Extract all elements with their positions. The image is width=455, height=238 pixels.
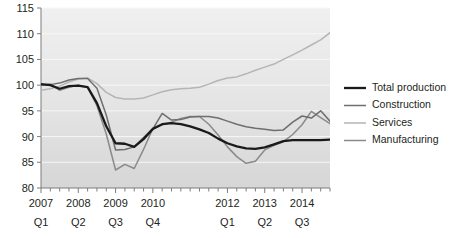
y-tick-label: 80: [22, 182, 34, 194]
x-tick-quarter-label: Q2: [257, 216, 272, 228]
x-tick-year-label: 2010: [141, 197, 165, 209]
y-tick-label: 95: [22, 105, 34, 117]
x-tick-year-label: 2008: [66, 197, 90, 209]
legend-label-total-production: Total production: [372, 81, 446, 93]
x-tick-quarter-label: Q4: [146, 216, 161, 228]
y-tick-label: 105: [16, 53, 34, 65]
y-tick-label: 115: [16, 2, 34, 14]
x-tick-year-label: 2007: [29, 197, 53, 209]
x-tick-quarter-label: Q3: [108, 216, 123, 228]
x-tick-quarter-label: Q1: [34, 216, 49, 228]
x-tick-year-label: 2009: [103, 197, 127, 209]
plot-area-background: [41, 8, 330, 188]
x-tick-year-label: 2014: [290, 197, 314, 209]
line-chart: 80859095100105110115 2007Q12008Q22009Q32…: [0, 0, 455, 238]
chart-figure: 80859095100105110115 2007Q12008Q22009Q32…: [0, 0, 455, 238]
y-tick-label: 90: [22, 131, 34, 143]
y-tick-label: 100: [16, 79, 34, 91]
x-tick-quarter-label: Q1: [220, 216, 235, 228]
legend-label-manufacturing: Manufacturing: [372, 133, 439, 145]
x-tick-quarter-label: Q3: [295, 216, 310, 228]
x-tick-year-label: 2013: [252, 197, 276, 209]
x-tick-quarter-label: Q2: [71, 216, 86, 228]
legend-label-services: Services: [372, 116, 412, 128]
legend-label-construction: Construction: [372, 98, 431, 110]
x-tick-year-label: 2012: [215, 197, 239, 209]
y-tick-label: 110: [16, 28, 34, 40]
y-tick-label: 85: [22, 156, 34, 168]
